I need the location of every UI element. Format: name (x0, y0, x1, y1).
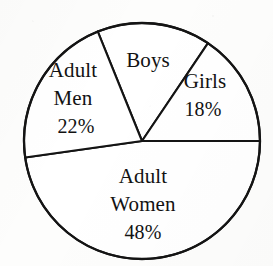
label-adult-women-line1: Adult (119, 164, 167, 188)
label-adult-men-line1: Adult (49, 58, 97, 82)
value-girls: 18% (185, 98, 222, 120)
value-adult-women: 48% (125, 221, 162, 243)
label-boys: Boys (126, 48, 170, 72)
label-adult-women-line2: Women (110, 192, 176, 216)
pie-chart-figure: Boys Girls 18% Adult Women 48% Adult Men… (0, 0, 273, 266)
label-girls: Girls (184, 69, 227, 93)
label-adult-men-line2: Men (54, 86, 93, 110)
pie-chart-svg: Boys Girls 18% Adult Women 48% Adult Men… (0, 0, 273, 266)
value-adult-men: 22% (58, 115, 95, 137)
